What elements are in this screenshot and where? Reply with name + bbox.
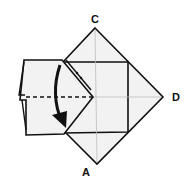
label-d: D bbox=[172, 91, 180, 103]
origami-diagram: C D A bbox=[0, 0, 193, 179]
label-c: C bbox=[91, 13, 99, 25]
label-a: A bbox=[82, 166, 90, 178]
alignment-dot-2 bbox=[80, 77, 82, 79]
alignment-dot-1 bbox=[76, 72, 78, 74]
